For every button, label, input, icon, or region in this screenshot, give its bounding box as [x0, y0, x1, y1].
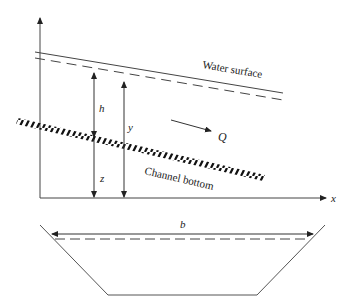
x-axis-label: x — [330, 192, 336, 204]
b-label: b — [180, 218, 186, 230]
channel-bottom: Channel bottom — [16, 118, 265, 192]
depth-y: y — [124, 82, 133, 197]
z-label: z — [99, 172, 105, 184]
flow-label: Q — [218, 130, 227, 144]
water-surface: Water surface — [35, 52, 283, 100]
channel-flow-diagram: x Water surface Channel bottom Q h y z — [0, 0, 341, 299]
elevation-z: z — [94, 139, 105, 197]
flow-indicator: Q — [171, 120, 227, 144]
flow-arrow — [171, 120, 211, 131]
y-label: y — [127, 121, 133, 133]
cross-section: b — [40, 218, 325, 295]
channel-bottom-hatch — [16, 118, 265, 181]
channel-bottom-label: Channel bottom — [144, 164, 216, 192]
water-surface-label: Water surface — [202, 58, 264, 80]
depth-h: h — [94, 73, 105, 137]
h-label: h — [99, 102, 105, 114]
trapezoid-channel — [40, 225, 325, 295]
